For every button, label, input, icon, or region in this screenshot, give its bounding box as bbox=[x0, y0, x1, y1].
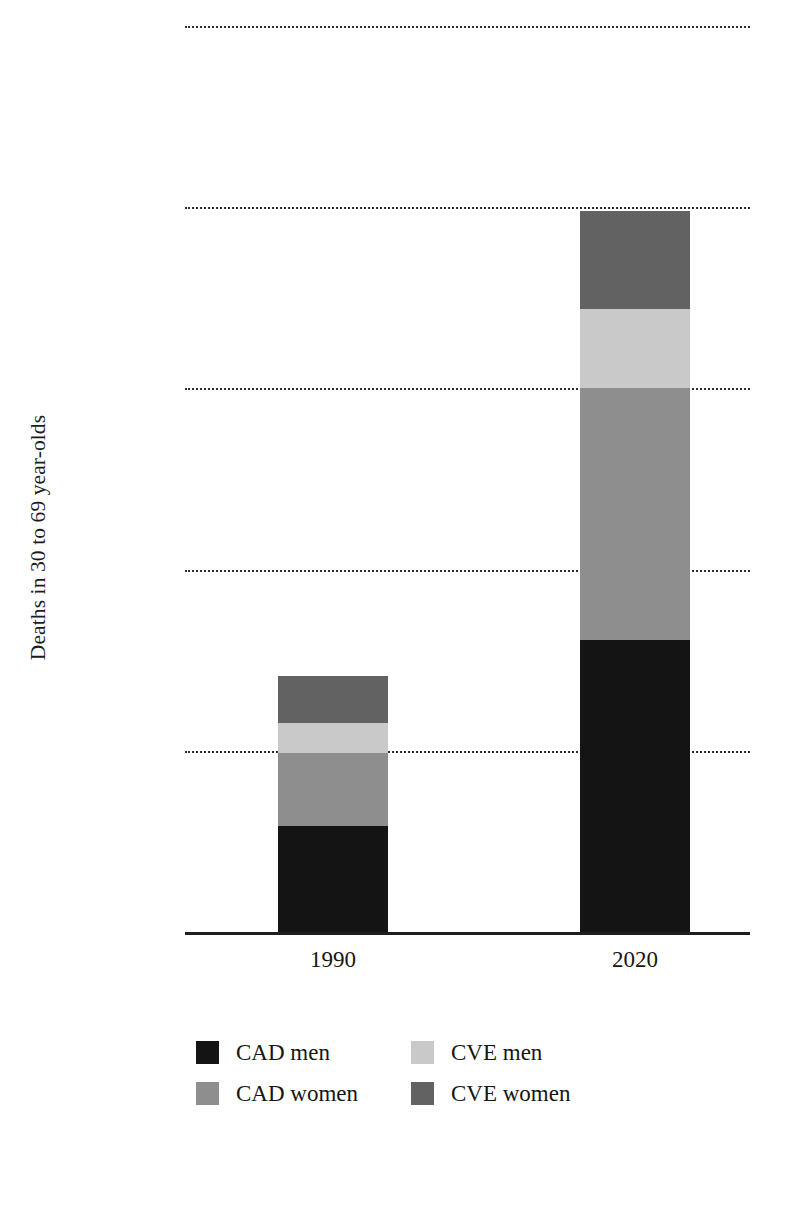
legend-label: CVE men bbox=[451, 1041, 542, 1064]
legend-swatch-icon bbox=[411, 1041, 434, 1064]
bar-2020 bbox=[580, 211, 690, 932]
legend-row: CAD womenCVE women bbox=[196, 1073, 626, 1114]
legend-item-cad-women: CAD women bbox=[196, 1082, 411, 1105]
bar-1990 bbox=[278, 676, 388, 932]
bar-segment-cve-men bbox=[580, 309, 690, 387]
stacked-bar-chart: Deaths in 30 to 69 year-olds 25000002000… bbox=[0, 0, 791, 1209]
legend-swatch-icon bbox=[411, 1082, 434, 1105]
x-axis-line bbox=[185, 932, 750, 935]
bar-segment-cad-men bbox=[580, 640, 690, 932]
bar-segment-cve-women bbox=[278, 676, 388, 722]
x-tick-label: 2020 bbox=[555, 947, 715, 973]
legend-row: CAD menCVE men bbox=[196, 1032, 626, 1073]
bar-segment-cve-men bbox=[278, 723, 388, 753]
chart-legend: CAD menCVE menCAD womenCVE women bbox=[196, 1032, 626, 1114]
plot-area: 25000002000000150000010000005000000 1990… bbox=[185, 26, 750, 932]
legend-item-cad-men: CAD men bbox=[196, 1041, 411, 1064]
bar-segment-cad-men bbox=[278, 826, 388, 932]
legend-label: CAD men bbox=[236, 1041, 330, 1064]
gridline bbox=[185, 207, 750, 209]
bar-segment-cad-women bbox=[580, 388, 690, 640]
bar-segment-cve-women bbox=[580, 211, 690, 309]
bar-segment-cad-women bbox=[278, 753, 388, 827]
legend-item-cve-men: CVE men bbox=[411, 1041, 626, 1064]
x-tick-label: 1990 bbox=[253, 947, 413, 973]
legend-label: CVE women bbox=[451, 1082, 570, 1105]
y-axis-title: Deaths in 30 to 69 year-olds bbox=[26, 278, 51, 798]
gridline bbox=[185, 26, 750, 28]
legend-swatch-icon bbox=[196, 1041, 219, 1064]
legend-label: CAD women bbox=[236, 1082, 358, 1105]
legend-swatch-icon bbox=[196, 1082, 219, 1105]
legend-item-cve-women: CVE women bbox=[411, 1082, 626, 1105]
